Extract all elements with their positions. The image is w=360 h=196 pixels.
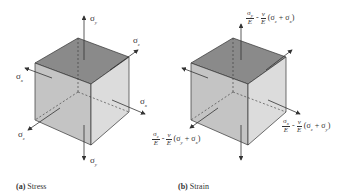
stress-strain-diagram <box>0 0 360 196</box>
caption-b: (b) Strain <box>178 182 209 191</box>
stress-cube <box>25 16 145 160</box>
sigma-z-back-label: σz <box>133 36 140 47</box>
strain-z-equation: σzE - νE (σy + σx) <box>152 131 200 147</box>
sigma-z-front-label: σz <box>18 130 25 141</box>
sigma-x-right-label: σx <box>140 97 147 108</box>
sigma-y-bottom-label: σy <box>90 156 97 167</box>
sigma-x-left-label: σx <box>16 72 23 83</box>
strain-y-equation: σyE - νE (σz + σx) <box>246 10 294 26</box>
caption-a: (a) Stress <box>16 182 46 191</box>
strain-x-equation: σxE - νE (σz + σy) <box>282 118 330 134</box>
sigma-y-top-label: σy <box>90 14 97 25</box>
